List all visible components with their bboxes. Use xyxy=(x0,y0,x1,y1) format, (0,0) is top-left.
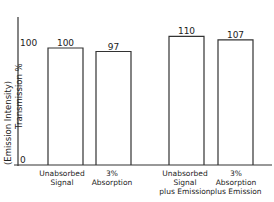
category-label: 3% xyxy=(106,169,118,178)
category-label: Unabsorbed xyxy=(162,169,208,178)
bar xyxy=(169,36,204,165)
bar-value-label: 110 xyxy=(178,26,195,36)
category-label: Signal xyxy=(50,178,73,187)
bar-chart: 100 0 (Emission Intensity) Transmission … xyxy=(0,0,274,202)
y-tick-100: 100 xyxy=(20,38,37,48)
bar xyxy=(218,40,253,165)
category-label: plus Emission xyxy=(210,187,262,196)
bars-group: 10097110107 xyxy=(48,26,253,165)
bar-value-label: 107 xyxy=(227,30,244,40)
y-axis-label-emission: (Emission Intensity) xyxy=(3,81,13,165)
bar xyxy=(96,52,131,165)
category-label: Signal xyxy=(173,178,196,187)
chart: 100 0 (Emission Intensity) Transmission … xyxy=(0,0,274,202)
category-label: plus Emission xyxy=(159,187,211,196)
category-label: Unabsorbed xyxy=(39,169,85,178)
category-label: Absorption xyxy=(92,178,133,187)
category-label: Absorption xyxy=(216,178,257,187)
bar-value-label: 97 xyxy=(108,42,119,52)
bar-value-label: 100 xyxy=(57,38,74,48)
y-tick-0: 0 xyxy=(20,155,26,165)
y-axis-label-transmission: Transmission % xyxy=(14,63,24,130)
category-label: 3% xyxy=(230,169,242,178)
bar xyxy=(48,48,83,165)
category-labels: UnabsorbedSignal3%AbsorptionUnabsorbedSi… xyxy=(39,169,262,196)
